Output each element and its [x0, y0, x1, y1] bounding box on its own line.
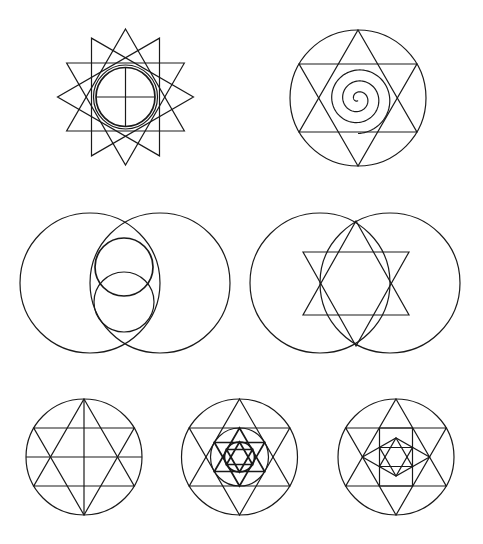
spiral — [332, 70, 390, 134]
hexagram-spiral-figure — [290, 30, 426, 166]
vesica-hexagram-figure — [250, 213, 460, 353]
nested-hexagrams-figure — [182, 399, 298, 515]
hexagram-down-triangle — [299, 64, 417, 166]
lower-small-circle — [94, 272, 154, 332]
outer-circle — [182, 399, 298, 515]
vesica-circles-figure — [20, 213, 230, 353]
outer-hexagram-up-triangle — [346, 399, 446, 486]
hexagram-up-triangle — [303, 221, 409, 315]
outer-hexagram-down-triangle — [346, 428, 446, 515]
hexagram-down-triangle — [303, 252, 409, 346]
outer-circle — [338, 399, 454, 515]
middle-circle — [211, 428, 269, 486]
hexagram-square-lattice-figure — [338, 399, 454, 515]
hexagram-grid-figure — [26, 399, 142, 515]
inner-hexagram-up-triangle — [380, 438, 413, 467]
upper-small-circle — [95, 238, 153, 296]
rhombus — [363, 438, 430, 476]
twelve-point-star-figure — [58, 29, 194, 165]
symbols-canvas — [0, 0, 483, 544]
outer-circle — [290, 30, 426, 166]
inner-circle — [225, 442, 255, 472]
inner-hexagram-down-triangle — [380, 448, 413, 477]
